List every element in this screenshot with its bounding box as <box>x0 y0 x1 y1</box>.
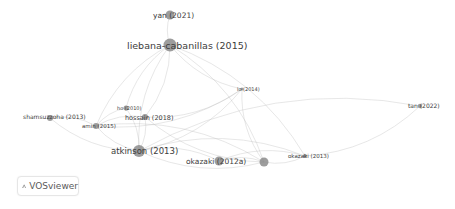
network-edge <box>139 45 170 151</box>
node-label-okazaki2012a[interactable]: okazaki (2012a) <box>186 157 246 166</box>
vosviewer-logo: VOSviewer <box>17 176 79 196</box>
node-label-tan2022[interactable]: tan (2022) <box>408 102 440 109</box>
network-edge <box>145 45 170 117</box>
edges-layer <box>50 15 420 168</box>
node-label-atkinson2013[interactable]: atkinson (2013) <box>111 146 178 156</box>
network-node-okazaki2012b[interactable] <box>260 158 269 167</box>
node-label-yan2021[interactable]: yan (2021) <box>153 11 194 20</box>
node-label-okazaki2013[interactable]: okazaki (2013) <box>288 153 329 159</box>
network-edge <box>305 106 420 156</box>
node-label-hossain2018[interactable]: hossain (2018) <box>125 114 173 122</box>
nodes-layer <box>47 11 422 167</box>
node-label-liebana2015[interactable]: liebana-cabanillas (2015) <box>127 40 247 51</box>
vosviewer-logo-icon <box>22 179 26 193</box>
node-label-ho2010[interactable]: ho (2010) <box>117 105 141 111</box>
node-label-amin2015[interactable]: amin (2015) <box>82 123 116 129</box>
node-label-shamsuzzoha2013[interactable]: shamsuzzoha (2013) <box>23 113 86 120</box>
labels-layer: yan (2021)liebana-cabanillas (2015)lo (2… <box>23 11 440 166</box>
network-edge <box>139 98 420 151</box>
vosviewer-logo-text: VOSviewer <box>29 181 78 191</box>
node-label-li2014[interactable]: lo (2014) <box>237 86 260 92</box>
